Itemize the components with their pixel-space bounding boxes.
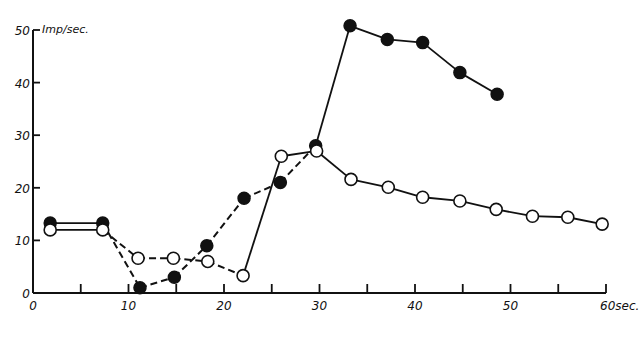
- filled-circle-marker: [134, 282, 146, 294]
- x-tick-label: 50: [503, 299, 519, 313]
- x-tick-label: 40: [407, 299, 423, 313]
- open-circle-marker: [345, 173, 357, 185]
- open-circle-marker: [311, 145, 323, 157]
- open-circle-marker: [44, 224, 56, 236]
- series-segment: [207, 198, 244, 245]
- x-tick-label: 30: [312, 299, 328, 313]
- line-chart: 01020304050Imp/sec.0102030405060sec.: [0, 0, 641, 340]
- series-segment: [316, 26, 350, 146]
- y-tick-label: 30: [15, 129, 31, 143]
- filled-circle-marker: [274, 177, 286, 189]
- filled-circle-marker: [381, 33, 393, 45]
- y-tick-label: 10: [15, 234, 31, 248]
- x-tick-label: 20: [216, 299, 232, 313]
- open-circle-marker: [596, 218, 608, 230]
- filled-circle-marker: [344, 20, 356, 32]
- open-circle-marker: [382, 181, 394, 193]
- x-tick-label: 60sec.: [600, 299, 639, 313]
- x-tick-label: 0: [29, 299, 37, 313]
- y-axis-label: Imp/sec.: [42, 23, 89, 36]
- axes: 01020304050Imp/sec.0102030405060sec.: [15, 23, 640, 313]
- filled-circle-marker: [238, 192, 250, 204]
- open-circle-marker: [526, 210, 538, 222]
- open-circle-marker: [97, 224, 109, 236]
- open-circle-marker: [237, 270, 249, 282]
- y-tick-label: 40: [15, 77, 31, 91]
- open-circle-marker: [417, 191, 429, 203]
- filled-circle-marker: [168, 271, 180, 283]
- filled-circle-marker: [491, 88, 503, 100]
- open-circle-marker: [562, 211, 574, 223]
- open-circle-marker: [132, 252, 144, 264]
- open-circle-marker: [454, 195, 466, 207]
- filled-circle-marker: [454, 67, 466, 79]
- series-markers: [44, 20, 608, 294]
- series-segment: [423, 43, 460, 73]
- series-segment: [243, 156, 281, 275]
- open-circle-marker: [202, 255, 214, 267]
- y-tick-label: 20: [15, 182, 31, 196]
- y-tick-label: 50: [15, 24, 31, 38]
- open-circle-marker: [275, 150, 287, 162]
- filled-circle-marker: [201, 240, 213, 252]
- filled-circle-marker: [417, 37, 429, 49]
- series-lines: [50, 26, 602, 288]
- open-circle-marker: [167, 252, 179, 264]
- x-tick-label: 10: [121, 299, 137, 313]
- open-circle-marker: [490, 203, 502, 215]
